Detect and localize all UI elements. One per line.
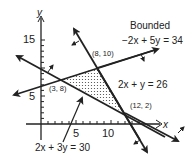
vertex-label-3-8: (3, 8) <box>49 84 67 93</box>
y-tick-5: 5 <box>29 90 35 102</box>
x-axis-label: x <box>162 119 169 130</box>
equation-line-3: 2x + 3y = 30 <box>35 142 90 153</box>
x-tick-5: 5 <box>73 127 79 139</box>
y-axis-label: y <box>36 7 43 18</box>
feasible-region-graph: y x 15 5 5 10 (3, 8) (8, 10) (12, 2) Bou… <box>0 0 194 165</box>
feasible-region <box>62 68 125 113</box>
equation-line-1: −2x + 5y = 34 <box>122 35 183 46</box>
y-tick-15: 15 <box>23 33 35 45</box>
vertex-label-8-10: (8, 10) <box>92 49 114 58</box>
vertex-label-12-2: (12, 2) <box>130 101 152 110</box>
equation-line-2: 2x + y = 26 <box>118 79 168 90</box>
region-title: Bounded <box>130 20 170 31</box>
x-tick-10: 10 <box>102 127 114 139</box>
y-axis <box>38 16 45 140</box>
